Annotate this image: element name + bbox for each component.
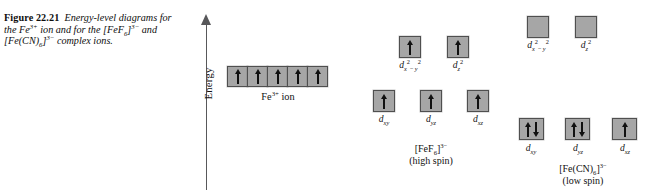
orbital-box-dz2 xyxy=(447,36,469,58)
free-ion-charge: 3+ xyxy=(272,90,279,97)
electron-arrow-up-icon xyxy=(295,69,301,84)
fecn6-caption: [Fe(CN)6]3− (low spin) xyxy=(528,163,638,186)
orbital-label-dxy: dxy xyxy=(506,142,556,153)
orbital-box-dxy xyxy=(519,118,544,140)
orbital-label-dyz: dyz xyxy=(553,142,603,153)
charge-sup-fef6: 3− xyxy=(131,22,139,29)
orbital-box-dxz xyxy=(467,90,489,112)
electron-arrows xyxy=(400,37,420,57)
charge-sup-fecn6: 3− xyxy=(46,34,54,41)
fef6-formula: [FeF6]3− xyxy=(381,143,481,155)
electron-arrow-up-icon xyxy=(455,40,461,55)
electron-arrows xyxy=(468,91,488,111)
orbital-box-dx2y2 xyxy=(527,16,549,38)
electron-arrow-down-icon xyxy=(579,122,585,137)
orbital-label-dyz: dyz xyxy=(406,113,456,124)
orbital-box-dxy xyxy=(373,90,395,112)
orbital-box-dx2y2 xyxy=(399,36,421,58)
orbital-box xyxy=(307,66,328,87)
energy-axis-label: Energy xyxy=(203,54,214,114)
orbital-label-dz2: dz2 xyxy=(433,59,483,70)
electron-arrows xyxy=(421,91,441,111)
electron-arrow-up-icon xyxy=(571,122,577,137)
electron-arrow-up-icon xyxy=(235,69,241,84)
electron-arrow-up-icon xyxy=(475,94,481,109)
orbital-box-dyz xyxy=(565,118,590,140)
orbital-label-dxz: dxz xyxy=(600,142,650,153)
electron-arrows xyxy=(248,67,267,86)
electron-arrow-up-icon xyxy=(525,122,531,137)
electron-arrow-up-icon xyxy=(428,94,434,109)
electron-arrows xyxy=(566,119,589,139)
electron-arrow-down-icon xyxy=(533,122,539,137)
fef6-spin-note: (high spin) xyxy=(381,155,481,167)
fef6-caption: [FeF6]3− (high spin) xyxy=(381,143,481,166)
orbital-box xyxy=(267,66,288,87)
electron-arrow-up-icon xyxy=(315,69,321,84)
figure-caption: Figure 22.21 Energy-level diagrams for t… xyxy=(4,12,180,47)
figure-page: Figure 22.21 Energy-level diagrams for t… xyxy=(0,0,655,193)
electron-arrows xyxy=(288,67,307,86)
orbital-label-dx2y2: dx2− y2 xyxy=(508,39,568,50)
orbital-box-dyz xyxy=(420,90,442,112)
electron-arrows xyxy=(448,37,468,57)
orbital-box xyxy=(227,66,248,87)
electron-arrows xyxy=(520,119,543,139)
orbital-label-dz2: dz2 xyxy=(561,39,611,50)
subscript-6-fef6: 6 xyxy=(124,30,127,37)
electron-arrows xyxy=(308,67,327,86)
electron-arrows xyxy=(228,67,247,86)
orbital-box xyxy=(287,66,308,87)
electron-arrows xyxy=(268,67,287,86)
electron-arrow-up-icon xyxy=(407,40,413,55)
electron-arrow-up-icon xyxy=(275,69,281,84)
orbital-box xyxy=(247,66,268,87)
charge-sup-fe: 3+ xyxy=(30,22,38,29)
electron-arrow-up-icon xyxy=(622,122,628,137)
electron-arrows xyxy=(374,91,394,111)
orbital-label-dxz: dxz xyxy=(453,113,503,124)
orbital-label-dxy: dxy xyxy=(359,113,409,124)
free-ion-caption: Fe3+ ion xyxy=(228,91,328,102)
electron-arrow-up-icon xyxy=(255,69,261,84)
orbital-label-dx2y2: dx2− y2 xyxy=(380,59,440,70)
fecn6-formula: [Fe(CN)6]3− xyxy=(528,163,638,175)
orbital-box-dxz xyxy=(612,118,637,140)
orbital-box-dz2 xyxy=(575,16,597,38)
electron-arrows xyxy=(613,119,636,139)
subscript-6-fecn6: 6 xyxy=(39,41,42,48)
electron-arrow-up-icon xyxy=(381,94,387,109)
fecn6-spin-note: (low spin) xyxy=(528,175,638,187)
